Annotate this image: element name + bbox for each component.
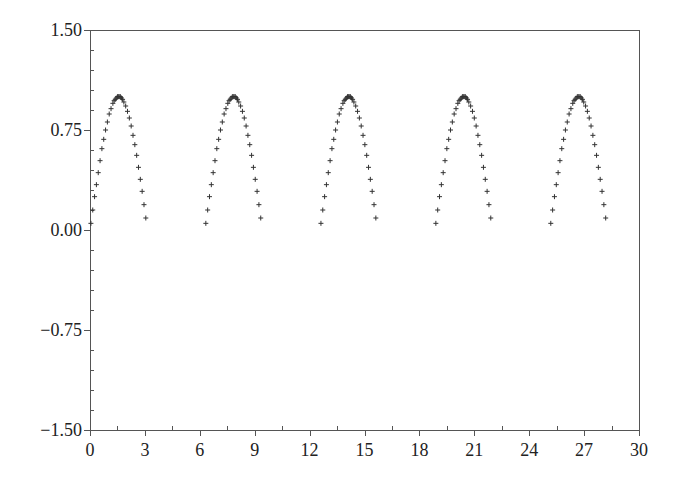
plus-marker [141, 202, 146, 207]
plus-marker [101, 137, 106, 142]
plus-marker [439, 182, 444, 187]
plus-marker [479, 153, 484, 158]
plus-marker [140, 189, 145, 194]
plus-marker [361, 133, 366, 138]
plus-marker [554, 182, 559, 187]
plus-marker [256, 202, 261, 207]
plus-marker [370, 189, 375, 194]
plus-marker [138, 177, 143, 182]
y-tick-label: −0.75 [40, 320, 82, 340]
plus-marker [598, 177, 603, 182]
plus-marker [359, 124, 364, 129]
plus-marker [357, 116, 362, 121]
y-tick-label: 0.75 [51, 120, 83, 140]
plus-marker [601, 202, 606, 207]
plus-marker [328, 158, 333, 163]
plus-marker [600, 189, 605, 194]
x-tick-label: 18 [410, 440, 428, 460]
plus-marker [339, 106, 344, 111]
plus-marker [470, 109, 475, 114]
plus-marker [203, 221, 208, 226]
plus-marker [552, 194, 557, 199]
plot-frame [91, 31, 640, 431]
plus-marker [594, 153, 599, 158]
plus-marker [249, 153, 254, 158]
plus-marker [320, 208, 325, 213]
plus-marker [475, 133, 480, 138]
plus-marker [355, 109, 360, 114]
plus-marker [364, 153, 369, 158]
plus-marker [244, 124, 249, 129]
y-tick-label: 1.50 [51, 20, 83, 40]
plus-marker [131, 133, 136, 138]
x-tick-label: 12 [301, 440, 319, 460]
plus-marker [435, 208, 440, 213]
plus-marker [452, 112, 457, 117]
plus-marker [373, 216, 378, 221]
x-tick-label: 27 [575, 440, 593, 460]
plus-marker [589, 124, 594, 129]
plus-marker [218, 128, 223, 133]
plus-marker [596, 165, 601, 170]
plus-marker [209, 182, 214, 187]
plus-marker [474, 124, 479, 129]
plus-marker [590, 133, 595, 138]
plus-marker [444, 146, 449, 151]
plus-marker [258, 216, 263, 221]
x-tick-label: 0 [86, 440, 95, 460]
plus-marker [362, 142, 367, 147]
plus-marker [318, 221, 323, 226]
plus-marker [603, 216, 608, 221]
plus-marker [222, 112, 227, 117]
x-tick-label: 15 [356, 440, 374, 460]
x-tick-label: 24 [520, 440, 538, 460]
plus-marker [214, 146, 219, 151]
plus-marker [485, 189, 490, 194]
plus-marker [592, 142, 597, 147]
plus-marker [446, 137, 451, 142]
x-tick-label: 9 [250, 440, 259, 460]
plus-marker [88, 221, 93, 226]
plus-marker [205, 208, 210, 213]
plus-marker [92, 194, 97, 199]
plus-marker [366, 165, 371, 170]
plus-marker [220, 120, 225, 125]
plus-marker [223, 106, 228, 111]
plus-marker [548, 221, 553, 226]
plus-marker [550, 208, 555, 213]
plus-marker [568, 106, 573, 111]
plot-border [91, 31, 640, 431]
plus-marker [322, 194, 327, 199]
plus-marker [561, 137, 566, 142]
plus-marker [335, 120, 340, 125]
plus-marker [448, 128, 453, 133]
sine-scatter-chart: 1.500.750.00−0.75−1.50 03691215182124273… [0, 0, 679, 497]
plus-marker [557, 158, 562, 163]
x-tick-label: 30 [630, 440, 648, 460]
plus-marker [216, 137, 221, 142]
plus-marker [454, 106, 459, 111]
plus-marker [96, 170, 101, 175]
plus-marker [483, 177, 488, 182]
x-tick-label: 3 [140, 440, 149, 460]
plus-marker [329, 146, 334, 151]
plus-marker [559, 146, 564, 151]
y-axis: 1.500.750.00−0.75−1.50 [40, 20, 94, 440]
data-markers [88, 94, 608, 226]
plus-marker [245, 133, 250, 138]
plus-marker [242, 116, 247, 121]
y-tick-label: 0.00 [51, 220, 83, 240]
plus-marker [247, 142, 252, 147]
plus-marker [337, 112, 342, 117]
y-tick-label: −1.50 [40, 420, 82, 440]
plus-marker [368, 177, 373, 182]
plus-marker [443, 158, 448, 163]
plus-marker [98, 158, 103, 163]
plus-marker [488, 216, 493, 221]
plus-marker [132, 142, 137, 147]
plus-marker [567, 112, 572, 117]
plus-marker [333, 128, 338, 133]
plus-marker [324, 182, 329, 187]
plus-marker [136, 165, 141, 170]
plus-marker [212, 158, 217, 163]
